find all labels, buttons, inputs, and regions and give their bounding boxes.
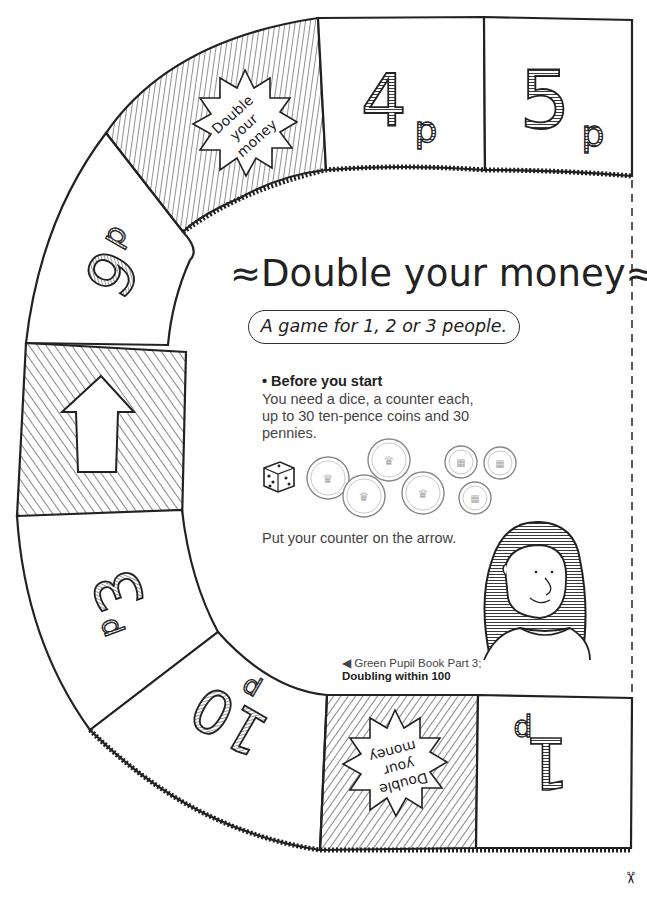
svg-text:▦: ▦ <box>456 457 465 468</box>
penny-coin: ▦ <box>445 446 477 478</box>
square-double-bottom: Double your money <box>320 695 478 850</box>
game-board: Double your money 4 p 5 p 9 p 3 p <box>0 0 647 899</box>
svg-text:▦: ▦ <box>470 493 479 504</box>
ten-pence-coin: ♛ <box>402 472 444 514</box>
dice-icon <box>264 462 294 492</box>
needs-text: You need a dice, a counter each, up to 3… <box>262 391 492 442</box>
unit-p: p <box>513 713 532 748</box>
scissors-icon: ✂ <box>621 871 640 884</box>
svg-text:♛: ♛ <box>359 490 370 504</box>
subtitle-pill: A game for 1, 2 or 3 people. <box>248 310 520 344</box>
svg-text:▦: ▦ <box>495 458 504 469</box>
svg-text:♛: ♛ <box>323 472 334 486</box>
book-reference: ◀ Green Pupil Book Part 3; <box>342 656 481 670</box>
page-title: ≈Double your money≈ <box>230 252 640 295</box>
girl-illustration <box>484 522 590 660</box>
unit-p: p <box>415 109 438 150</box>
ten-pence-coin: ♛ <box>343 475 385 517</box>
penny-coin: ▦ <box>484 447 516 479</box>
start-instruction: Put your counter on the arrow. <box>262 530 456 546</box>
unit-p: p <box>582 113 605 154</box>
square-4p: 4 p <box>318 17 485 170</box>
square-start[interactable] <box>17 343 186 522</box>
before-you-start-heading: • Before you start <box>262 373 382 389</box>
svg-text:♛: ♛ <box>384 454 395 468</box>
svg-text:♛: ♛ <box>418 487 429 501</box>
topic-reference: Doubling within 100 <box>342 670 451 682</box>
penny-coin: ▦ <box>459 482 491 514</box>
square-1p: 1 p <box>476 695 632 848</box>
value-4: 4 <box>361 58 407 142</box>
ten-pence-coin: ♛ <box>368 439 410 481</box>
square-5p: 5 p <box>484 17 632 176</box>
value-5: 5 <box>520 54 571 147</box>
